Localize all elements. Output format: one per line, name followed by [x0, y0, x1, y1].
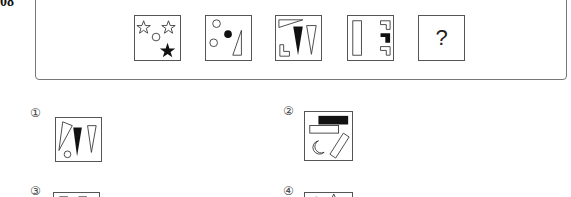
rectangle-and-brackets-icon: [348, 16, 393, 60]
option-4[interactable]: [304, 192, 353, 197]
option-3-shapes-icon: [54, 193, 99, 197]
option-4-shapes-icon: [305, 193, 352, 197]
question-mark: ?: [419, 16, 464, 60]
option-2-shapes-icon: [305, 112, 352, 160]
option-3[interactable]: [53, 192, 100, 197]
sequence-cell-2: [205, 15, 252, 61]
option-label-2: ②: [283, 104, 294, 118]
option-1-shapes-icon: [56, 118, 101, 161]
circles-and-triangle-icon: [206, 16, 251, 60]
option-label-4: ④: [283, 184, 294, 197]
sequence-cell-1: [134, 15, 181, 61]
option-1[interactable]: [55, 117, 102, 162]
triangles-icon: [276, 16, 321, 60]
question-number: 08: [0, 0, 14, 10]
sequence-cell-3: [275, 15, 322, 61]
sequence-cell-unknown: ?: [418, 15, 465, 61]
sequence-cell-4: [347, 15, 394, 61]
option-label-1: ①: [30, 106, 41, 120]
option-label-3: ③: [30, 184, 41, 197]
option-2[interactable]: [304, 111, 353, 161]
stars-and-circle-icon: [135, 16, 180, 60]
